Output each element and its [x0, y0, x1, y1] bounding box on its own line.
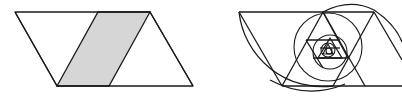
right-triangle-edge	[150, 12, 193, 86]
right-figure-spiral: Row of equilateral triangles with a spir…	[200, 0, 402, 99]
left-figure-parallelogram: Parallelogram made of equilateral triang…	[0, 0, 200, 99]
shaded-parallelogram	[57, 12, 150, 86]
edge-4	[333, 12, 374, 86]
large-arc-left	[239, 12, 333, 87]
left-triangle-edge	[15, 12, 57, 86]
edge-5	[374, 12, 402, 60]
left-figure-svg	[0, 0, 200, 99]
edge-1	[239, 12, 282, 86]
right-figure-svg	[200, 0, 402, 99]
edge-2	[282, 12, 323, 86]
large-arc-right	[323, 4, 402, 42]
